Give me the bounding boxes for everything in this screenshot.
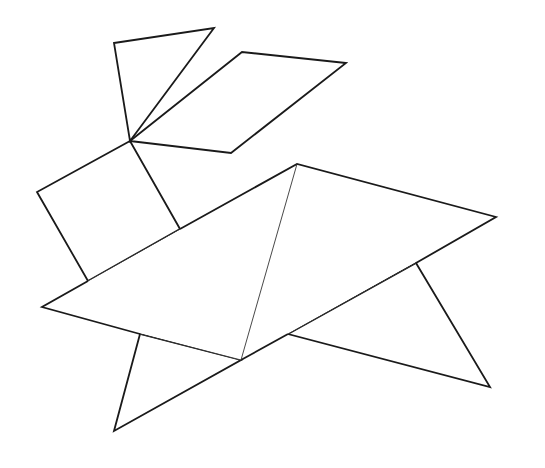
ear-parallelogram xyxy=(130,52,346,153)
ear-triangle xyxy=(114,28,214,141)
tangram-rabbit-figure xyxy=(0,0,545,468)
